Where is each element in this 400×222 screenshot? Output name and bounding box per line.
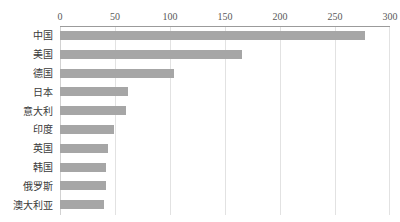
bar-1: [60, 50, 242, 59]
y-axis-row: 美国: [0, 46, 56, 65]
y-tick-label-3: 日本: [33, 87, 56, 99]
bar-0: [60, 31, 365, 40]
bar-row: [60, 83, 390, 102]
y-axis-row: 英国: [0, 140, 56, 159]
bar-2: [60, 69, 174, 78]
y-axis-row: 印度: [0, 121, 56, 140]
y-axis-tick-labels: 中国 美国 德国 日本 意大利 印度 英国 韩国 俄罗斯 澳大利亚: [0, 27, 56, 215]
plot-area: [60, 27, 390, 215]
y-axis-row: 俄罗斯: [0, 177, 56, 196]
bar-row: [60, 102, 390, 121]
bar-row: [60, 46, 390, 65]
y-tick-label-6: 英国: [33, 143, 56, 155]
x-tick-label-0: 0: [58, 10, 63, 24]
bar-5: [60, 125, 114, 134]
bar-3: [60, 87, 128, 96]
bar-row: [60, 121, 390, 140]
y-tick-label-5: 印度: [33, 124, 56, 136]
x-tick-label-4: 200: [273, 10, 288, 24]
bar-series: [60, 27, 390, 215]
y-tick-label-8: 俄罗斯: [23, 181, 56, 193]
y-tick-label-1: 美国: [33, 49, 56, 61]
bar-row: [60, 65, 390, 84]
y-tick-label-0: 中国: [33, 30, 56, 42]
bar-4: [60, 106, 126, 115]
bar-8: [60, 181, 106, 190]
x-tick-label-2: 100: [163, 10, 178, 24]
y-axis-row: 意大利: [0, 102, 56, 121]
y-tick-label-9: 澳大利亚: [13, 200, 56, 212]
bar-6: [60, 144, 108, 153]
bar-7: [60, 163, 106, 172]
bar-row: [60, 177, 390, 196]
y-axis-row: 中国: [0, 27, 56, 46]
bar-row: [60, 159, 390, 178]
y-tick-label-4: 意大利: [23, 106, 56, 118]
bar-row: [60, 140, 390, 159]
x-tick-label-6: 300: [383, 10, 398, 24]
bar-row: [60, 196, 390, 215]
y-tick-label-7: 韩国: [33, 162, 56, 174]
bar-chart: 0 50 100 150 200 250 300 中国 美国 德国 日本 意大利…: [0, 0, 400, 222]
bar-row: [60, 27, 390, 46]
x-tick-label-3: 150: [218, 10, 233, 24]
y-axis-row: 德国: [0, 65, 56, 84]
x-tick-label-5: 250: [328, 10, 343, 24]
y-axis-row: 韩国: [0, 159, 56, 178]
y-axis-row: 日本: [0, 83, 56, 102]
y-axis-row: 澳大利亚: [0, 196, 56, 215]
y-tick-label-2: 德国: [33, 68, 56, 80]
x-tick-label-1: 50: [110, 10, 120, 24]
x-axis-tick-labels: 0 50 100 150 200 250 300: [0, 10, 400, 24]
bar-9: [60, 200, 104, 209]
